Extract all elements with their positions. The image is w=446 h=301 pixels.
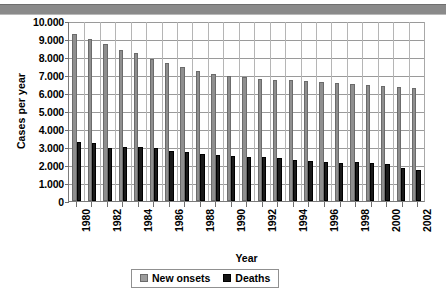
bar-deaths bbox=[401, 168, 405, 201]
bar-deaths bbox=[247, 157, 251, 201]
bar-group bbox=[331, 22, 346, 201]
x-axis-tick-label: 1980 bbox=[68, 209, 84, 251]
bar-deaths bbox=[216, 155, 220, 201]
x-axis-tick-label bbox=[270, 209, 286, 251]
bar-group bbox=[115, 22, 130, 201]
bar-group bbox=[378, 22, 393, 201]
y-axis-tick-label: 5.000 bbox=[39, 106, 64, 118]
bar-deaths bbox=[370, 163, 374, 201]
bar-deaths bbox=[231, 156, 235, 201]
bar-deaths bbox=[416, 170, 420, 202]
bar-deaths bbox=[324, 162, 328, 201]
x-axis-tick-label: 1982 bbox=[99, 209, 115, 251]
bar-group bbox=[254, 22, 269, 201]
x-axis-tick-label bbox=[146, 209, 162, 251]
bar-group bbox=[208, 22, 223, 201]
bar-deaths bbox=[355, 162, 359, 201]
bar-group bbox=[270, 22, 285, 201]
legend-item: Deaths bbox=[223, 272, 270, 284]
x-axis-tick-label: 1986 bbox=[161, 209, 177, 251]
bar-group bbox=[162, 22, 177, 201]
x-axis-tick-label: 1988 bbox=[192, 209, 208, 251]
x-axis-tick-label: 1984 bbox=[130, 209, 146, 251]
y-axis-tick-label: 0 bbox=[58, 196, 64, 208]
x-axis-tick-label-text: 2002 bbox=[421, 209, 433, 232]
x-axis-tick-label bbox=[332, 209, 348, 251]
bar-group bbox=[131, 22, 146, 201]
y-axis-tick-label: 1.000 bbox=[39, 178, 64, 190]
x-axis-tick-label bbox=[115, 209, 131, 251]
x-axis-tick-label: 1998 bbox=[347, 209, 363, 251]
bar-deaths bbox=[262, 157, 266, 201]
x-axis-tick-label: 1990 bbox=[223, 209, 239, 251]
x-axis-tick-label bbox=[394, 209, 410, 251]
bar-deaths bbox=[277, 158, 281, 201]
x-axis-tick-label: 1996 bbox=[316, 209, 332, 251]
bar-deaths bbox=[200, 154, 204, 201]
bar-group bbox=[239, 22, 254, 201]
x-axis-title: Year bbox=[68, 252, 425, 264]
bar-deaths bbox=[92, 143, 96, 202]
bar-group bbox=[84, 22, 99, 201]
bar-deaths bbox=[77, 142, 81, 201]
x-axis-tick-labels: 1980198219841986198819901992199419961998… bbox=[68, 209, 425, 251]
y-axis-tick-label: 9.000 bbox=[39, 34, 64, 46]
bar-deaths bbox=[154, 148, 158, 201]
legend-swatch-onsets bbox=[140, 274, 148, 282]
bar-groups bbox=[69, 22, 424, 201]
bar-group bbox=[347, 22, 362, 201]
bar-chart: Cases per year 10.0009.0008.0007.0006.00… bbox=[0, 13, 446, 301]
bar-group bbox=[177, 22, 192, 201]
bar-group bbox=[316, 22, 331, 201]
x-axis-tick-label bbox=[301, 209, 317, 251]
y-axis-tick-label: 2.000 bbox=[39, 160, 64, 172]
x-axis-tick-label bbox=[363, 209, 379, 251]
bar-group bbox=[146, 22, 161, 201]
x-axis-tick-label bbox=[177, 209, 193, 251]
x-axis-tick-label: 2000 bbox=[378, 209, 394, 251]
y-axis-tick-label: 6.000 bbox=[39, 88, 64, 100]
bar-deaths bbox=[108, 148, 112, 201]
x-axis-tick-label: 1992 bbox=[254, 209, 270, 251]
bar-deaths bbox=[138, 147, 142, 201]
x-axis-tick-label bbox=[208, 209, 224, 251]
legend-item: New onsets bbox=[140, 272, 210, 284]
y-axis-tick-label: 8.000 bbox=[39, 52, 64, 64]
y-axis-tick-label: 3.000 bbox=[39, 142, 64, 154]
legend-swatch-deaths bbox=[223, 274, 231, 282]
y-axis-tick-label: 10.000 bbox=[33, 16, 64, 28]
y-axis-tick-labels: 10.0009.0008.0007.0006.0005.0004.0003.00… bbox=[14, 13, 64, 213]
x-axis-tick-label bbox=[84, 209, 100, 251]
x-axis-tick-label: 1994 bbox=[285, 209, 301, 251]
chart-legend: New onsetsDeaths bbox=[131, 269, 279, 288]
bar-group bbox=[100, 22, 115, 201]
bar-deaths bbox=[308, 161, 312, 202]
bar-deaths bbox=[169, 151, 173, 201]
bar-group bbox=[409, 22, 424, 201]
y-axis-tick-label: 4.000 bbox=[39, 124, 64, 136]
bar-deaths bbox=[293, 160, 297, 201]
bar-deaths bbox=[123, 147, 127, 201]
bar-group bbox=[69, 22, 84, 201]
x-axis-tick-label bbox=[239, 209, 255, 251]
bar-deaths bbox=[385, 164, 389, 201]
plot-area bbox=[68, 22, 425, 202]
bar-group bbox=[193, 22, 208, 201]
bar-deaths bbox=[185, 152, 189, 201]
bar-group bbox=[362, 22, 377, 201]
legend-label: Deaths bbox=[235, 272, 270, 284]
bar-deaths bbox=[339, 163, 343, 201]
bar-group bbox=[285, 22, 300, 201]
bar-group bbox=[301, 22, 316, 201]
bar-group bbox=[393, 22, 408, 201]
x-axis-tick-label: 2002 bbox=[409, 209, 425, 251]
legend-label: New onsets bbox=[152, 272, 210, 284]
bar-group bbox=[223, 22, 238, 201]
y-axis-tick-label: 7.000 bbox=[39, 70, 64, 82]
